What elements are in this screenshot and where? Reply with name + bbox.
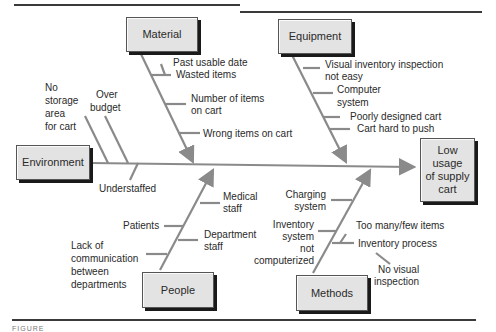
category-people-label: People — [161, 284, 195, 297]
cause-wrong-items: Wrong items on cart — [203, 128, 292, 140]
cause-lack-of-communication-2: communication — [71, 253, 138, 265]
cause-visual-inventory-2: not easy — [325, 71, 363, 83]
cause-lack-of-communication: Lack of — [71, 240, 103, 252]
cause-computer-system-2: system — [337, 97, 369, 109]
category-equipment-label: Equipment — [289, 30, 342, 43]
cause-number-of-items-2: on cart — [191, 105, 222, 117]
cause-medical-staff-2: staff — [223, 203, 242, 215]
cause-no-visual-inspection-2: inspection — [374, 276, 419, 288]
cause-cart-hard-to-push: Cart hard to push — [357, 123, 434, 135]
effect-line: Low — [425, 144, 469, 157]
cause-no-storage: No — [45, 82, 58, 94]
cause-over-budget: Over — [96, 89, 118, 101]
figure-caption: FIGURE — [12, 325, 44, 332]
category-methods: Methods — [296, 275, 368, 311]
cause-charging-system: Charging — [284, 189, 326, 201]
effect-line: of supply — [425, 170, 469, 183]
effect-line: usage — [425, 157, 469, 170]
cause-understaffed: Understaffed — [99, 183, 156, 195]
category-environment: Environment — [16, 145, 90, 180]
category-methods-label: Methods — [311, 287, 353, 300]
cause-inventory-system-2: system — [260, 231, 314, 243]
effect-line: cart — [425, 183, 469, 196]
bottom-rule — [12, 319, 476, 321]
cause-past-usable-date: Past usable date — [173, 57, 248, 69]
cause-lack-of-communication-4: departments — [71, 279, 127, 291]
cause-visual-inventory: Visual inventory inspection — [325, 59, 443, 71]
cause-number-of-items: Number of items — [191, 93, 264, 105]
cause-over-budget-2: budget — [90, 102, 121, 114]
cause-department-staff-2: staff — [204, 241, 223, 253]
category-people: People — [142, 272, 214, 308]
category-equipment: Equipment — [278, 19, 352, 54]
category-environment-label: Environment — [22, 156, 84, 169]
cause-charging-system-2: system — [284, 201, 326, 213]
cause-no-storage-3: area — [45, 108, 65, 120]
cause-too-many-few-items: Too many/few items — [356, 220, 444, 232]
cause-patients: Patients — [123, 220, 159, 232]
cause-no-visual-inspection: No visual — [378, 264, 419, 276]
effect-box: Low usage of supply cart — [420, 138, 475, 202]
category-material-label: Material — [142, 28, 181, 41]
cause-inventory-system-4: computerized — [240, 255, 314, 267]
cause-inventory-process: Inventory process — [358, 238, 437, 250]
category-material: Material — [126, 17, 198, 52]
cause-lack-of-communication-3: between — [71, 266, 109, 278]
cause-department-staff: Department — [204, 229, 256, 241]
cause-no-storage-2: storage — [45, 95, 78, 107]
cause-poorly-designed-cart: Poorly designed cart — [350, 111, 441, 123]
cause-no-storage-4: for cart — [45, 121, 76, 133]
cause-wasted-items: Wasted items — [176, 69, 236, 81]
cause-inventory-system: Inventory — [260, 219, 314, 231]
cause-computer-system: Computer — [337, 84, 381, 96]
cause-inventory-system-3: not — [260, 243, 314, 255]
cause-medical-staff: Medical — [223, 191, 257, 203]
